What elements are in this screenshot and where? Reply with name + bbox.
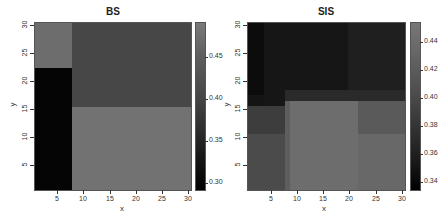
sis-cbar-tick — [420, 182, 423, 183]
bs-panel: BS 30 25 20 15 10 5 y 5 10 15 20 25 30 x… — [0, 0, 224, 223]
bs-cbar-label: 0.45 — [209, 52, 223, 59]
bs-xtick — [188, 190, 189, 194]
sis-ytick-label: 10 — [234, 131, 241, 143]
sis-region — [248, 95, 264, 106]
sis-cbar-label: 0.44 — [424, 37, 438, 44]
bs-cbar-label: 0.40 — [209, 94, 223, 101]
sis-region — [264, 23, 285, 106]
bs-ytick-label: 20 — [21, 75, 28, 87]
sis-xtick — [271, 190, 272, 194]
sis-xtick — [297, 190, 298, 194]
bs-region-topleft — [35, 23, 72, 68]
sis-ytick-label: 20 — [234, 75, 241, 87]
sis-cbar-label: 0.34 — [424, 177, 438, 184]
sis-cbar-label: 0.36 — [424, 149, 438, 156]
bs-colorbar — [195, 22, 206, 191]
bs-ytick-label: 10 — [21, 131, 28, 143]
sis-region — [285, 90, 405, 101]
sis-ytick — [243, 25, 247, 26]
sis-ytick-label: 15 — [234, 103, 241, 115]
sis-xtick — [323, 190, 324, 194]
sis-ytick-label: 25 — [234, 47, 241, 59]
bs-cbar-label: 0.30 — [209, 178, 223, 185]
sis-ytick — [243, 81, 247, 82]
bs-xtick — [57, 190, 58, 194]
bs-xtick-label: 15 — [104, 195, 116, 202]
bs-xtick-label: 30 — [182, 195, 194, 202]
sis-region — [248, 134, 285, 190]
sis-region — [358, 134, 405, 190]
bs-cbar-tick — [205, 141, 208, 142]
sis-region — [358, 101, 405, 134]
sis-xtick — [402, 190, 403, 194]
bs-ytick — [30, 109, 34, 110]
bs-ytick-label: 30 — [21, 19, 28, 31]
bs-cbar-tick — [205, 183, 208, 184]
sis-xtick-label: 30 — [396, 195, 408, 202]
bs-y-axis-label: y — [8, 103, 17, 107]
bs-ytick — [30, 165, 34, 166]
sis-region — [348, 23, 405, 90]
bs-xtick-label: 10 — [77, 195, 89, 202]
bs-ytick — [30, 25, 34, 26]
sis-y-axis-label: y — [222, 103, 231, 107]
sis-ytick — [243, 109, 247, 110]
sis-region — [248, 106, 285, 134]
sis-region — [290, 101, 358, 190]
sis-colorbar — [410, 22, 421, 191]
sis-xtick-label: 25 — [370, 195, 382, 202]
sis-cbar-tick — [420, 98, 423, 99]
bs-cbar-tick — [205, 57, 208, 58]
sis-cbar-tick — [420, 126, 423, 127]
bs-ytick-label: 25 — [21, 47, 28, 59]
sis-xtick — [376, 190, 377, 194]
sis-region — [285, 23, 348, 90]
sis-xtick-label: 20 — [343, 195, 355, 202]
bs-xtick — [162, 190, 163, 194]
sis-xtick — [349, 190, 350, 194]
sis-xtick-label: 5 — [265, 195, 277, 202]
bs-xtick — [83, 190, 84, 194]
sis-heatmap — [247, 22, 406, 191]
sis-xtick-label: 15 — [317, 195, 329, 202]
bs-xtick-label: 25 — [156, 195, 168, 202]
sis-cbar-label: 0.42 — [424, 65, 438, 72]
bs-ytick — [30, 81, 34, 82]
bs-region-bottomright — [72, 107, 191, 190]
sis-xtick-label: 10 — [291, 195, 303, 202]
bs-ytick-label: 15 — [21, 103, 28, 115]
bs-region-bottomleft — [35, 68, 72, 190]
bs-heatmap — [34, 22, 192, 191]
bs-ytick — [30, 53, 34, 54]
sis-ytick-label: 5 — [234, 159, 241, 171]
sis-region — [248, 23, 264, 95]
sis-title: SIS — [247, 6, 405, 17]
bs-xtick-label: 5 — [51, 195, 63, 202]
bs-xtick-label: 20 — [130, 195, 142, 202]
sis-cbar-tick — [420, 70, 423, 71]
bs-xtick — [136, 190, 137, 194]
bs-xtick — [110, 190, 111, 194]
sis-ytick-label: 30 — [234, 19, 241, 31]
sis-panel: SIS 30 25 20 15 10 5 y 5 10 15 20 25 30 … — [224, 0, 448, 223]
bs-cbar-label: 0.35 — [209, 136, 223, 143]
sis-cbar-tick — [420, 42, 423, 43]
bs-ytick-label: 5 — [21, 159, 28, 171]
sis-ytick — [243, 165, 247, 166]
bs-title: BS — [34, 6, 192, 17]
sis-cbar-label: 0.38 — [424, 121, 438, 128]
bs-ytick — [30, 137, 34, 138]
bs-cbar-tick — [205, 99, 208, 100]
sis-ytick — [243, 137, 247, 138]
bs-x-axis-label: x — [120, 204, 124, 213]
bs-region-topright — [72, 23, 191, 107]
sis-ytick — [243, 53, 247, 54]
sis-cbar-tick — [420, 154, 423, 155]
sis-x-axis-label: x — [322, 204, 326, 213]
sis-cbar-label: 0.40 — [424, 93, 438, 100]
